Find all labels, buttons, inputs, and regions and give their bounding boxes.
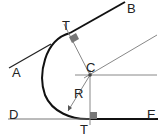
label-e: E (147, 107, 156, 122)
label-r: R (74, 86, 83, 101)
tangent-arc (42, 33, 90, 119)
right-angle-marker-bottom (90, 112, 97, 119)
label-t-top: T (62, 18, 70, 33)
label-t-bottom: T (80, 122, 88, 137)
label-a: A (12, 65, 21, 80)
line-b (70, 2, 125, 33)
label-c: C (86, 60, 95, 75)
label-d: D (9, 107, 18, 122)
label-b: B (127, 1, 136, 16)
right-angle-marker-top (69, 33, 79, 43)
geometry-diagram: A B C D E R T T (0, 0, 161, 137)
